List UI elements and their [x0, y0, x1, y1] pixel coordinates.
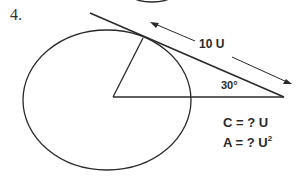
area-prompt: A = ? U2: [223, 134, 272, 150]
area-prompt-base: A = ? U: [223, 135, 268, 150]
arrowhead-lower-icon: [283, 79, 292, 84]
circle: [23, 30, 191, 170]
angle-label: 30°: [221, 79, 238, 91]
problem-number: 4.: [10, 6, 22, 24]
tangent-length-label: 10 U: [199, 37, 224, 51]
area-exponent: 2: [268, 134, 272, 143]
radius-line: [113, 38, 143, 97]
previous-figure-fragment: [128, 0, 176, 2]
diagram-graphic: [0, 0, 296, 180]
dimension-arrow-upper: [155, 24, 195, 41]
circumference-prompt: C = ? U: [223, 115, 268, 130]
arrowhead-upper-icon: [150, 22, 159, 28]
geometry-diagram: 4. 10 U 30° C = ? U A = ? U2: [0, 0, 296, 180]
